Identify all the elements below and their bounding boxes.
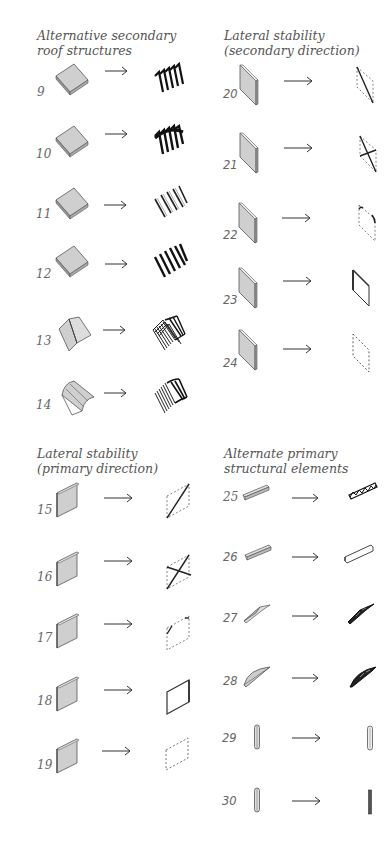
flat-plate-icon xyxy=(54,244,90,280)
arrow-icon xyxy=(104,556,134,566)
arrow-icon xyxy=(104,388,128,398)
single-brace-icon xyxy=(355,65,377,105)
flat-plate-icon xyxy=(54,186,90,222)
wall-panel-icon xyxy=(238,131,260,175)
wall-panel-icon xyxy=(55,481,81,521)
heading-line: roof structures xyxy=(37,43,176,58)
solid-column-icon xyxy=(367,788,373,816)
curved-ribs-icon xyxy=(153,377,189,417)
folded-plate-dense-icon xyxy=(153,124,189,164)
cross-brace-icon xyxy=(358,134,380,174)
knee-brace-icon xyxy=(357,203,379,243)
folded-plate-grid-icon xyxy=(153,62,189,102)
heading-lateral-primary: Lateral stability (primary direction) xyxy=(37,446,158,476)
arrow-icon xyxy=(292,611,320,621)
item-number: 20 xyxy=(223,87,238,101)
heading-lateral-secondary: Lateral stability (secondary direction) xyxy=(224,28,360,58)
solid-frame-icon xyxy=(165,678,193,716)
arrow-icon xyxy=(104,619,134,629)
heading-line: (primary direction) xyxy=(37,461,158,476)
joist-grid-icon xyxy=(153,185,189,221)
wall-panel-icon xyxy=(55,550,81,590)
wall-panel-icon xyxy=(237,201,259,245)
heading-line: structural elements xyxy=(224,461,348,476)
arched-beam-icon xyxy=(242,665,274,689)
item-number: 28 xyxy=(223,674,238,688)
beam-icon xyxy=(243,543,273,563)
arrow-icon xyxy=(104,685,134,695)
column-icon xyxy=(253,723,261,751)
arrow-icon xyxy=(292,796,322,806)
wall-panel-icon xyxy=(238,63,260,107)
arrow-icon xyxy=(292,733,322,743)
arrow-icon xyxy=(292,493,320,503)
arrow-icon xyxy=(105,66,129,76)
arrow-icon xyxy=(105,129,129,139)
item-number: 25 xyxy=(223,490,238,504)
item-number: 10 xyxy=(36,147,51,161)
wall-panel-icon xyxy=(55,675,81,715)
wall-panel-icon xyxy=(55,612,81,652)
item-number: 30 xyxy=(222,794,237,808)
tapered-beam-icon xyxy=(242,603,272,625)
item-number: 13 xyxy=(36,334,51,348)
item-number: 22 xyxy=(223,228,238,242)
truss-beam-icon xyxy=(347,481,379,503)
flat-plate-icon xyxy=(54,62,90,98)
heading-line: Lateral stability xyxy=(224,28,360,43)
arrow-icon xyxy=(102,746,132,756)
item-number: 26 xyxy=(223,550,238,564)
single-brace-icon xyxy=(165,482,193,520)
heading-line: Alternative secondary xyxy=(37,28,176,43)
heading-roof-structures: Alternative secondary roof structures xyxy=(37,28,176,58)
wall-panel-icon xyxy=(237,266,259,310)
item-number: 19 xyxy=(37,758,52,772)
arrow-icon xyxy=(292,673,320,683)
arrow-icon xyxy=(103,325,127,335)
item-number: 24 xyxy=(223,356,238,370)
curved-roof-icon xyxy=(60,379,96,415)
arrow-icon xyxy=(104,200,128,210)
cross-brace-icon xyxy=(165,553,193,591)
hollow-column-icon xyxy=(366,724,374,752)
knee-brace-icon xyxy=(165,614,193,652)
item-number: 16 xyxy=(37,570,52,584)
folded-roof-icon xyxy=(57,315,93,351)
wall-panel-icon xyxy=(237,328,259,372)
item-number: 15 xyxy=(37,503,52,517)
item-number: 27 xyxy=(223,611,238,625)
item-number: 11 xyxy=(36,207,51,221)
heading-line: Lateral stability xyxy=(37,446,158,461)
arrow-icon xyxy=(284,76,314,86)
arrow-icon xyxy=(104,493,134,503)
item-number: 23 xyxy=(223,293,238,307)
beam-icon xyxy=(241,483,271,503)
item-number: 21 xyxy=(223,158,238,172)
item-number: 17 xyxy=(37,631,52,645)
arrow-icon xyxy=(282,213,312,223)
arrow-icon xyxy=(284,143,314,153)
arrow-icon xyxy=(283,344,313,354)
solid-frame-icon xyxy=(351,268,373,308)
flat-beam-icon xyxy=(343,543,375,567)
flat-plate-icon xyxy=(54,124,90,160)
item-number: 14 xyxy=(36,398,51,412)
tapered-truss-icon xyxy=(346,602,376,626)
dashed-frame-icon xyxy=(164,736,192,772)
item-number: 18 xyxy=(37,694,52,708)
heading-line: Alternate primary xyxy=(224,446,348,461)
item-number: 9 xyxy=(37,85,45,99)
item-number: 29 xyxy=(222,731,237,745)
item-number: 12 xyxy=(36,267,51,281)
wall-panel-icon xyxy=(55,737,81,777)
dashed-frame-icon xyxy=(351,332,373,376)
folded-ribs-icon xyxy=(151,314,187,354)
arched-truss-icon xyxy=(348,665,378,689)
deep-joist-grid-icon xyxy=(153,243,189,283)
arrow-icon xyxy=(105,259,129,269)
arrow-icon xyxy=(283,276,313,286)
heading-line: (secondary direction) xyxy=(224,43,360,58)
column-icon xyxy=(253,786,261,814)
arrow-icon xyxy=(292,552,320,562)
heading-primary-elements: Alternate primary structural elements xyxy=(224,446,348,476)
